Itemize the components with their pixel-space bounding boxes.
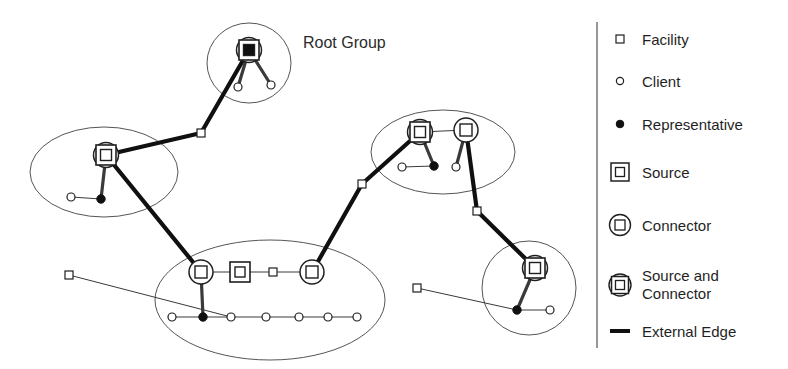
facility-icon <box>269 268 277 276</box>
client-icon <box>227 313 235 321</box>
representative-icon <box>199 313 207 321</box>
client-node[interactable] <box>324 313 332 321</box>
source-inner <box>235 267 245 277</box>
legend: FacilityClientRepresentativeSourceConnec… <box>597 22 743 348</box>
client-icon <box>262 313 270 321</box>
facility-node[interactable] <box>473 207 481 215</box>
legend-ext-edge[interactable]: External Edge <box>610 323 736 340</box>
legend-rep[interactable]: Representative <box>616 116 743 133</box>
external-edge <box>201 50 249 133</box>
client-node[interactable] <box>267 81 275 89</box>
connector-inner-icon <box>615 220 625 230</box>
group-outline <box>482 241 576 335</box>
representative-node[interactable] <box>430 162 438 170</box>
client-node[interactable] <box>398 163 406 171</box>
representative-icon <box>513 306 521 314</box>
client-icon <box>234 83 242 91</box>
legend-item-label: Connector <box>642 217 711 234</box>
source-and-connector-node[interactable] <box>408 120 433 145</box>
legend-item-label-line2: Connector <box>642 285 711 302</box>
legend-source-con[interactable]: Source andConnector <box>609 267 719 302</box>
client-node[interactable] <box>227 313 235 321</box>
representative-icon <box>97 195 105 203</box>
client-icon <box>295 313 303 321</box>
client-node[interactable] <box>262 313 270 321</box>
network-diagram: Root Group FacilityClientRepresentativeS… <box>0 0 788 369</box>
client-node[interactable] <box>452 163 460 171</box>
legend-connector[interactable]: Connector <box>610 215 712 236</box>
connector-inner <box>460 124 472 136</box>
representative-icon <box>430 162 438 170</box>
client-node[interactable] <box>546 306 554 314</box>
client-node[interactable] <box>295 313 303 321</box>
client-icon <box>546 306 554 314</box>
client-icon <box>267 81 275 89</box>
client-node[interactable] <box>67 193 75 201</box>
legend-source[interactable]: Source <box>611 163 690 181</box>
client-icon <box>616 77 623 84</box>
connector-inner <box>306 266 318 278</box>
client-icon <box>353 313 361 321</box>
representative-icon <box>616 120 624 128</box>
facility-icon <box>197 129 205 137</box>
facility-node[interactable] <box>358 180 366 188</box>
client-icon <box>67 193 75 201</box>
legend-item-label: Facility <box>642 31 689 48</box>
legend-facility[interactable]: Facility <box>616 31 689 48</box>
source-node[interactable] <box>230 262 250 282</box>
representative-node[interactable] <box>97 195 105 203</box>
client-icon <box>398 163 406 171</box>
connector-node[interactable] <box>300 260 324 284</box>
facility-node[interactable] <box>269 268 277 276</box>
facility-node[interactable] <box>65 271 73 279</box>
client-icon <box>168 313 176 321</box>
annotations-layer: Root Group <box>303 34 386 51</box>
legend-item-label: Client <box>642 73 681 90</box>
facility-node[interactable] <box>413 284 421 292</box>
source-and-connector-inner <box>415 127 426 138</box>
connector-node[interactable] <box>454 118 478 142</box>
legend-item-label: Source <box>642 164 690 181</box>
diagram-canvas: Root Group FacilityClientRepresentativeS… <box>0 0 788 369</box>
source-and-connector-inner-icon <box>616 281 625 290</box>
group-outline <box>371 110 515 194</box>
source-inner-icon <box>616 168 625 177</box>
source-and-connector-core <box>244 45 255 56</box>
internal-edge <box>417 288 517 310</box>
source-and-connector-inner <box>530 263 541 274</box>
legend-item-label: External Edge <box>642 323 736 340</box>
external-edge <box>106 133 201 155</box>
facility-icon <box>616 35 624 43</box>
root-group-label: Root Group <box>303 34 386 51</box>
client-icon <box>452 163 460 171</box>
representative-node[interactable] <box>513 306 521 314</box>
connector-node[interactable] <box>189 260 213 284</box>
connector-inner <box>195 266 207 278</box>
group-outlines-layer <box>30 23 576 360</box>
legend-item-label: Representative <box>642 116 743 133</box>
client-icon <box>324 313 332 321</box>
facility-icon <box>473 207 481 215</box>
facility-icon <box>358 180 366 188</box>
legend-item-label: Source and <box>642 267 719 284</box>
facility-node[interactable] <box>197 129 205 137</box>
source-and-connector-node[interactable] <box>523 256 548 281</box>
source-and-connector-inner <box>101 150 112 161</box>
client-node[interactable] <box>168 313 176 321</box>
facility-icon <box>65 271 73 279</box>
external-edges-layer <box>106 50 535 272</box>
source-and-connector-node[interactable] <box>94 143 119 168</box>
client-node[interactable] <box>234 83 242 91</box>
external-edge <box>106 155 201 272</box>
facility-icon <box>413 284 421 292</box>
client-node[interactable] <box>353 313 361 321</box>
legend-client[interactable]: Client <box>616 73 681 90</box>
representative-node[interactable] <box>199 313 207 321</box>
nodes-layer <box>65 38 554 322</box>
internal-edge <box>402 166 434 167</box>
